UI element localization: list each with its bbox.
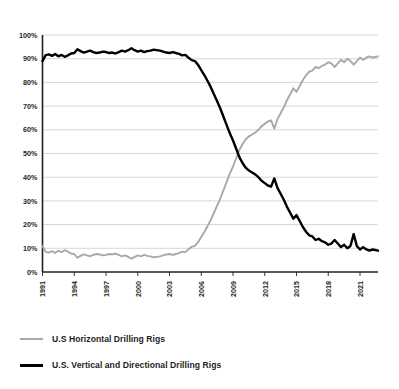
line-chart-svg: 0%10%20%30%40%50%60%70%80%90%100% 199119…: [0, 0, 399, 310]
y-axis-labels-group: 0%10%20%30%40%50%60%70%80%90%100%: [19, 31, 38, 277]
y-axis-tick-label: 90%: [23, 54, 38, 63]
plot-area: 0%10%20%30%40%50%60%70%80%90%100% 199119…: [0, 0, 399, 310]
x-axis-tick-label: 2009: [229, 281, 238, 297]
x-axis-tick-label: 2006: [197, 281, 206, 297]
x-axis-tick-label: 1991: [38, 281, 47, 297]
y-axis-tick-label: 60%: [23, 125, 38, 134]
y-axis-tick-label: 0%: [27, 268, 38, 277]
legend-label-vertical-directional: U.S. Vertical and Directional Drilling R…: [52, 360, 221, 370]
legend-item-vertical-directional: U.S. Vertical and Directional Drilling R…: [0, 352, 399, 378]
x-axis-tick-label: 1994: [70, 281, 79, 297]
x-axis-tick-label: 1997: [102, 281, 111, 297]
legend-swatch-icon-horizontal: [20, 338, 43, 340]
x-axis-tick-label: 2021: [356, 281, 365, 297]
y-axis-tick-label: 70%: [23, 102, 38, 111]
chart-legend: U.S Horizontal Drilling Rigs U.S. Vertic…: [0, 326, 399, 386]
legend-item-horizontal: U.S Horizontal Drilling Rigs: [0, 326, 399, 352]
y-axis-tick-label: 80%: [23, 78, 38, 87]
y-axis-tick-label: 40%: [23, 173, 38, 182]
legend-label-horizontal: U.S Horizontal Drilling Rigs: [52, 334, 165, 344]
x-axis-tick-label: 2012: [261, 281, 270, 297]
y-axis-tick-label: 10%: [23, 244, 38, 253]
x-axis-tick-label: 2015: [292, 281, 301, 297]
chart-figure: 0%10%20%30%40%50%60%70%80%90%100% 199119…: [0, 0, 399, 389]
legend-swatch-icon-vertical-directional: [20, 364, 43, 367]
x-axis-tick-label: 2018: [324, 281, 333, 297]
x-axis-tick-label: 2000: [134, 281, 143, 297]
x-axis-labels-group: 1991199419972000200320062009201220152018…: [38, 281, 365, 297]
gridlines-group: [43, 35, 379, 248]
y-axis-tick-label: 20%: [23, 220, 38, 229]
y-axis-tick-label: 30%: [23, 197, 38, 206]
x-axis-tick-label: 2003: [165, 281, 174, 297]
y-axis-tick-label: 50%: [23, 149, 38, 158]
y-axis-tick-label: 100%: [19, 31, 38, 40]
